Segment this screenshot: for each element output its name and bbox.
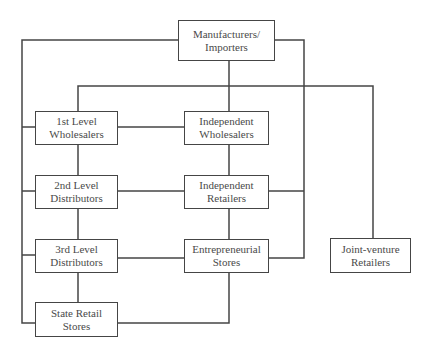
node-label-line1: 2nd Level	[54, 179, 98, 192]
node-label-line1: Entrepreneurial	[192, 243, 260, 256]
node-label-line1: Manufacturers/	[193, 28, 260, 41]
node-label-line2: Distributors	[50, 256, 103, 269]
node-label-line1: State Retail	[51, 307, 102, 320]
node-label-line1: 3rd Level	[55, 243, 97, 256]
node-independent-wholesalers: Independent Wholesalers	[184, 111, 269, 145]
node-label-line2: Importers	[205, 41, 248, 54]
node-entrepreneurial-stores: Entrepreneurial Stores	[184, 239, 269, 273]
node-manufacturers: Manufacturers/ Importers	[178, 20, 275, 61]
node-label-line1: Independent	[199, 115, 253, 128]
node-first-level-wholesalers: 1st Level Wholesalers	[35, 111, 118, 145]
node-label-line2: Retailers	[351, 256, 390, 269]
node-label-line2: Stores	[63, 320, 91, 333]
node-state-retail-stores: State Retail Stores	[35, 302, 118, 337]
node-label-line2: Wholesalers	[49, 128, 103, 141]
node-label-line2: Stores	[213, 256, 241, 269]
node-second-level-distributors: 2nd Level Distributors	[35, 175, 118, 209]
edge-entrepreneurial-to-state	[117, 272, 229, 323]
edge-right-trunk	[268, 40, 304, 258]
node-label-line2: Wholesalers	[199, 128, 253, 141]
node-label-line1: Joint-venture	[341, 243, 399, 256]
node-label-line1: 1st Level	[56, 115, 97, 128]
node-label-line2: Distributors	[50, 192, 103, 205]
node-label-line1: Independent	[199, 179, 253, 192]
node-label-line2: Retailers	[207, 192, 246, 205]
node-independent-retailers: Independent Retailers	[184, 175, 269, 209]
edge-top-bar	[78, 86, 373, 238]
node-joint-venture-retailers: Joint-venture Retailers	[330, 238, 411, 273]
node-third-level-distributors: 3rd Level Distributors	[35, 239, 118, 273]
